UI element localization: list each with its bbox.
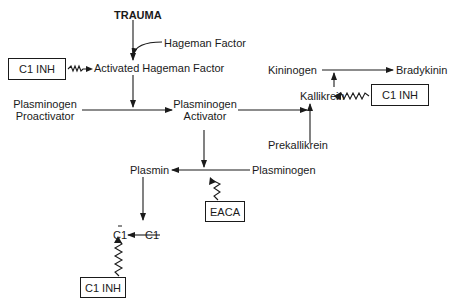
inhibitor-eaca: EACA	[205, 201, 245, 222]
node-trauma: TRAUMA	[114, 9, 162, 21]
edge-hf-to-ahf	[133, 42, 162, 55]
node-bradykinin: Bradykinin	[396, 64, 447, 76]
node-activated-hageman-factor: Activated Hageman Factor	[94, 62, 224, 74]
node-c1-activated: C1	[113, 229, 127, 241]
node-plasminogen-activator-line1: Plasminogen	[170, 98, 240, 110]
inhibitor-c1-inh-right: C1 INH	[371, 84, 429, 106]
inhibit-c1inh-to-ahf	[68, 66, 86, 71]
node-plasminogen-proactivator-line1: Plasminogen	[10, 98, 80, 110]
node-prekallikrein: Prekallikrein	[268, 139, 328, 151]
node-c1: C1	[145, 229, 159, 241]
inhibitor-c1-inh-top: C1 INH	[8, 58, 66, 80]
node-plasmin: Plasmin	[130, 164, 169, 176]
inhibitor-c1-inh-bottom: C1 INH	[80, 277, 126, 298]
node-hageman-factor: Hageman Factor	[164, 37, 246, 49]
node-kininogen: Kininogen	[268, 64, 317, 76]
node-plasminogen: Plasminogen	[252, 164, 316, 176]
node-plasminogen-proactivator-line2: Proactivator	[10, 110, 80, 122]
node-plasminogen-activator-line2: Activator	[170, 110, 240, 122]
node-kallikrein: Kallikrein	[300, 90, 345, 102]
inhibit-c1inh-to-c1bar	[115, 240, 122, 276]
